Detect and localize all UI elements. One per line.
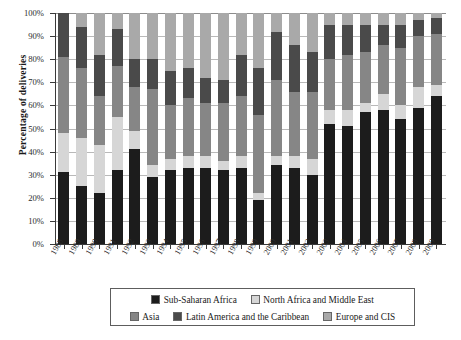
stacked-bar[interactable] bbox=[183, 13, 194, 244]
bar-segment bbox=[200, 103, 211, 156]
bar-slot bbox=[303, 13, 321, 244]
bar-segment bbox=[129, 87, 140, 131]
x-label-slot: 2004 bbox=[339, 250, 357, 290]
bar-segment bbox=[431, 34, 442, 85]
legend-row-2: AsiaLatin America and the CaribbeanEurop… bbox=[111, 308, 414, 325]
legend-label: North Africa and Middle East bbox=[263, 295, 374, 305]
stacked-bar[interactable] bbox=[431, 13, 442, 244]
y-tick-label: 80% bbox=[0, 54, 44, 64]
bar-segment bbox=[112, 66, 123, 117]
bar-segment bbox=[271, 32, 282, 81]
x-axis-labels: 1988198919901991199219931994199519961997… bbox=[55, 250, 445, 290]
stacked-bar[interactable] bbox=[165, 13, 176, 244]
bar-slot bbox=[73, 13, 91, 244]
legend-row-1: Sub-Saharan AfricaNorth Africa and Middl… bbox=[111, 291, 414, 308]
bar-segment bbox=[218, 103, 229, 161]
stacked-bar[interactable] bbox=[342, 13, 353, 244]
stacked-bar[interactable] bbox=[58, 13, 69, 244]
legend-swatch-icon bbox=[251, 295, 260, 304]
y-tick-label: 50% bbox=[0, 124, 44, 134]
stacked-bar[interactable] bbox=[378, 13, 389, 244]
bar-segment bbox=[76, 138, 87, 187]
bar-slot bbox=[321, 13, 339, 244]
y-tick-label: 40% bbox=[0, 147, 44, 157]
bar-segment bbox=[253, 193, 264, 200]
stacked-bar[interactable] bbox=[200, 13, 211, 244]
legend-swatch-icon bbox=[130, 312, 139, 321]
stacked-bar[interactable] bbox=[218, 13, 229, 244]
stacked-bar[interactable] bbox=[94, 13, 105, 244]
x-label-slot: 2008 bbox=[410, 250, 428, 290]
stacked-bar[interactable] bbox=[236, 13, 247, 244]
legend-item[interactable]: North Africa and Middle East bbox=[251, 295, 374, 305]
y-tick-label: 0% bbox=[0, 239, 44, 249]
stacked-bar[interactable] bbox=[147, 13, 158, 244]
legend-item[interactable]: Sub-Saharan Africa bbox=[151, 295, 237, 305]
x-label-slot: 2000 bbox=[268, 250, 286, 290]
bar-segment bbox=[129, 149, 140, 244]
bar-segment bbox=[94, 145, 105, 194]
x-label-slot: 2009 bbox=[427, 250, 445, 290]
bar-segment bbox=[236, 168, 247, 244]
stacked-bar[interactable] bbox=[129, 13, 140, 244]
bar-segment bbox=[395, 105, 406, 119]
bar-segment bbox=[395, 119, 406, 244]
bar-segment bbox=[271, 165, 282, 244]
bar-segment bbox=[183, 168, 194, 244]
bar-segment bbox=[431, 96, 442, 244]
bar-segment bbox=[76, 186, 87, 244]
stacked-bar[interactable] bbox=[324, 13, 335, 244]
y-tick-label: 90% bbox=[0, 31, 44, 41]
legend-item[interactable]: Asia bbox=[130, 312, 160, 322]
bar-segment bbox=[360, 52, 371, 103]
bar-segment bbox=[413, 13, 424, 20]
stacked-bar[interactable] bbox=[112, 13, 123, 244]
bar-segment bbox=[378, 94, 389, 110]
bar-segment bbox=[183, 156, 194, 168]
bar-segment bbox=[147, 165, 158, 177]
stacked-bar[interactable] bbox=[253, 13, 264, 244]
bar-slot bbox=[144, 13, 162, 244]
bar-segment bbox=[360, 13, 371, 25]
bar-segment bbox=[147, 59, 158, 89]
bar-slot bbox=[374, 13, 392, 244]
stacked-bar[interactable] bbox=[271, 13, 282, 244]
bar-segment bbox=[378, 45, 389, 94]
bar-segment bbox=[165, 71, 176, 106]
bar-slot bbox=[215, 13, 233, 244]
bar-slot bbox=[90, 13, 108, 244]
bar-slot bbox=[427, 13, 445, 244]
stacked-bar[interactable] bbox=[76, 13, 87, 244]
bar-segment bbox=[112, 29, 123, 66]
bar-segment bbox=[58, 13, 69, 57]
bar-segment bbox=[58, 57, 69, 133]
bar-segment bbox=[183, 13, 194, 68]
bar-segment bbox=[253, 68, 264, 114]
stacked-bar[interactable] bbox=[413, 13, 424, 244]
stacked-bar[interactable] bbox=[307, 13, 318, 244]
bar-segment bbox=[307, 13, 318, 52]
stacked-bar[interactable] bbox=[289, 13, 300, 244]
bar-segment bbox=[307, 92, 318, 159]
bar-segment bbox=[307, 159, 318, 175]
x-label-slot: 1998 bbox=[232, 250, 250, 290]
bar-segment bbox=[342, 110, 353, 126]
bar-segment bbox=[324, 124, 335, 244]
legend-item[interactable]: Europe and CIS bbox=[323, 312, 395, 322]
legend-item[interactable]: Latin America and the Caribbean bbox=[173, 312, 309, 322]
bar-segment bbox=[200, 78, 211, 103]
chart-root: Percentage of deliveries 0%10%20%30%40%5… bbox=[0, 0, 461, 340]
bar-segment bbox=[413, 20, 424, 36]
bar-segment bbox=[94, 55, 105, 97]
stacked-bar[interactable] bbox=[395, 13, 406, 244]
bar-segment bbox=[236, 96, 247, 156]
bar-segment bbox=[307, 175, 318, 244]
bar-segment bbox=[289, 156, 300, 168]
bar-segment bbox=[165, 159, 176, 171]
bar-segment bbox=[165, 105, 176, 158]
bar-segment bbox=[218, 170, 229, 244]
stacked-bar[interactable] bbox=[360, 13, 371, 244]
bar-segment bbox=[129, 13, 140, 59]
bar-segment bbox=[183, 98, 194, 156]
bar-slot bbox=[268, 13, 286, 244]
